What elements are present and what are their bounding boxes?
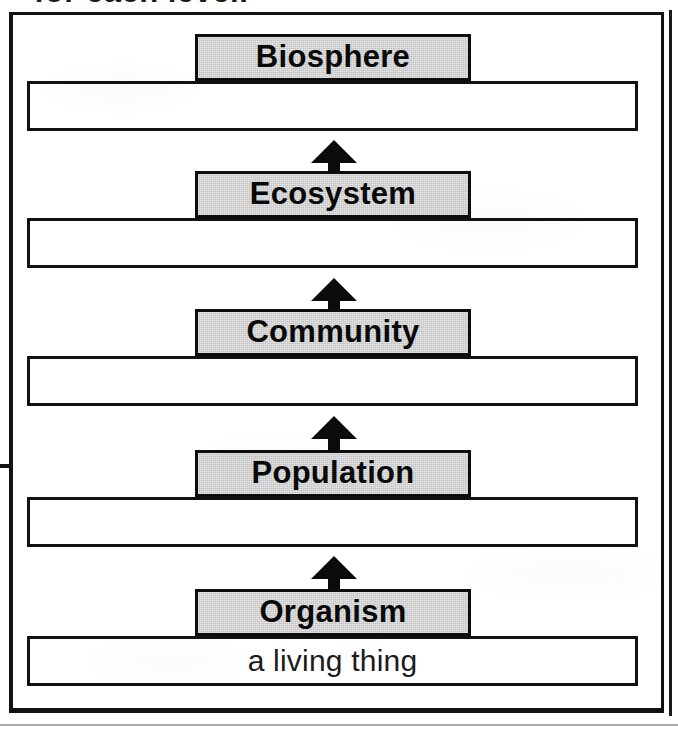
- level-description-text: a living thing: [248, 646, 418, 676]
- level-label-text: Community: [246, 316, 419, 347]
- level-label-text: Biosphere: [256, 41, 410, 72]
- scanned-page: for each level. BiosphereEcosystemCommun…: [0, 0, 678, 735]
- level-label-text: Ecosystem: [250, 178, 416, 209]
- level-description-bar: a living thing: [27, 636, 638, 686]
- level-label-text: Organism: [259, 596, 406, 627]
- level-label-box: Ecosystem: [195, 171, 471, 218]
- level-description-bar: [27, 356, 638, 406]
- level-label-box: Population: [195, 450, 471, 497]
- level-description-bar: [27, 497, 638, 547]
- levels-of-organization-diagram: BiosphereEcosystemCommunityPopulationa l…: [0, 0, 678, 735]
- level-description-bar: [27, 218, 638, 268]
- level-label-text: Population: [251, 457, 414, 488]
- level-label-box: Community: [195, 309, 471, 356]
- level-label-box: Biosphere: [195, 34, 471, 81]
- level-label-box: Organism: [195, 589, 471, 636]
- level-description-bar: [27, 81, 638, 131]
